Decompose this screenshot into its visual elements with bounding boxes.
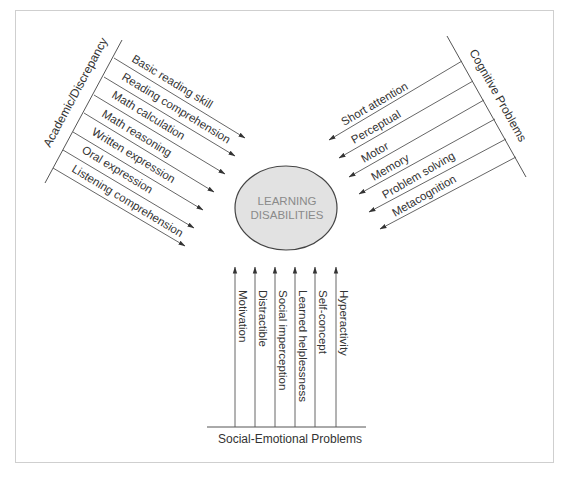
social-item-label: Hyperactivity <box>338 290 350 356</box>
cognitive-arrow-1 <box>329 61 462 140</box>
cognitive-baseline <box>447 36 526 177</box>
cognitive-group: Cognitive Problems Short attention Perce… <box>329 36 530 229</box>
academic-arrow-5 <box>73 132 203 210</box>
center-ellipse <box>235 166 337 250</box>
social-item-label: Self-concept <box>317 290 329 355</box>
social-category-label: Social-Emotional Problems <box>218 432 362 446</box>
social-item-label: Motivation <box>237 290 249 342</box>
social-item-label: Social imperception <box>277 290 289 390</box>
center-label-line2: DISABILITIES <box>251 209 324 221</box>
social-group: Social-Emotional Problems Motivation Dis… <box>207 267 366 446</box>
social-item-label: Distractible <box>257 290 269 347</box>
center-label-line1: LEARNING <box>258 195 317 207</box>
learning-disabilities-node: LEARNING DISABILITIES <box>235 166 337 250</box>
academic-group: Academic/Discrepancy Basic reading skill… <box>40 35 245 246</box>
academic-arrow-6 <box>63 150 194 228</box>
learning-disabilities-diagram: Academic/Discrepancy Basic reading skill… <box>0 0 566 478</box>
social-item-label: Learned helplessness <box>297 290 309 402</box>
